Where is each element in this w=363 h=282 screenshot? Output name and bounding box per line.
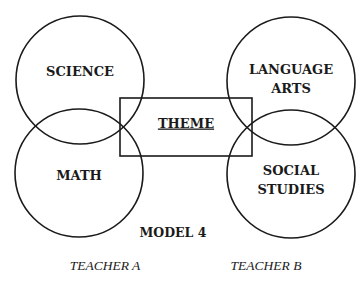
language-arts-label-line-1: LANGUAGE: [249, 62, 333, 77]
social-studies-label-line-1: SOCIAL: [263, 163, 319, 178]
math-label: MATH: [56, 168, 102, 183]
teacher-a-label: TEACHER A: [70, 258, 141, 273]
teacher-b-group: LANGUAGE ARTS SOCIAL STUDIES: [227, 17, 355, 238]
social-studies-label-line-2: STUDIES: [257, 182, 324, 197]
model-title: MODEL 4: [140, 225, 207, 240]
model-4-diagram: SCIENCE MATH LANGUAGE ARTS SOCIAL STUDIE…: [0, 0, 363, 282]
language-arts-label-line-2: ARTS: [270, 81, 311, 96]
teacher-b-label: TEACHER B: [231, 258, 302, 273]
teacher-a-group: SCIENCE MATH: [15, 16, 144, 237]
theme-label: THEME: [158, 116, 214, 131]
science-label: SCIENCE: [46, 64, 114, 79]
science-circle: [16, 16, 144, 144]
